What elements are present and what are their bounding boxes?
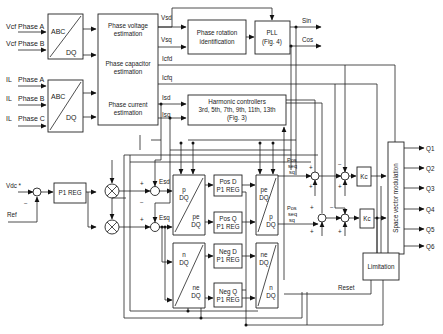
output-q2: Q2: [404, 165, 435, 173]
svg-text:Q3: Q3: [426, 185, 435, 193]
sum-junction-esd: [151, 187, 160, 196]
pos-q-p1-reg-block: Pos Q P1 REG: [214, 212, 242, 233]
phase-label: Phase B: [18, 40, 45, 47]
svg-text:Space vector modulation: Space vector modulation: [392, 163, 400, 233]
signal-label: IL: [6, 115, 12, 122]
svg-text:Pos Q: Pos Q: [219, 215, 237, 223]
svg-text:Phase capacitor: Phase capacitor: [105, 60, 150, 68]
ne-dq-transform: ne DQ n DQ: [256, 243, 278, 308]
sum-junction-kc1: [341, 172, 349, 180]
svg-text:Kc: Kc: [360, 173, 367, 180]
p1-reg-block: P1 REG: [54, 183, 86, 203]
svg-text:P1 REG: P1 REG: [216, 186, 239, 193]
svg-text:DQ: DQ: [266, 221, 276, 229]
output-q6: Q6: [404, 243, 435, 251]
svg-text:DQ: DQ: [179, 194, 189, 202]
signal-esd: Esd: [159, 178, 170, 185]
svg-text:ABC: ABC: [51, 28, 65, 35]
phase-label: Phase A: [18, 23, 44, 30]
signal-label: Vcf: [6, 23, 16, 30]
abc-dq-transform-vcf: ABC DQ: [48, 14, 83, 59]
p-dq-transform: p DQ pe DQ: [173, 175, 205, 235]
neg-d-p1-reg-block: Neg D P1 REG: [214, 244, 242, 268]
n-dq-transform: n DQ ne DQ: [173, 243, 205, 308]
svg-text:P1 REG: P1 REG: [216, 256, 239, 263]
output-q4: Q4: [404, 206, 435, 214]
control-block-diagram: Vcf Phase A Vcf Phase B IL Phase A IL Ph…: [0, 0, 443, 334]
signal-esq: Esq: [159, 214, 170, 222]
pos-d-p1-reg-block: Pos D P1 REG: [214, 175, 242, 196]
input-il-phase-c: IL Phase C: [6, 115, 46, 126]
svg-text:Q2: Q2: [426, 165, 435, 173]
pll-block: PLL (Fig. 4): [255, 21, 290, 54]
svg-text:Phase current: Phase current: [108, 101, 147, 108]
input-ref: Ref: [7, 211, 17, 218]
svg-text:+: +: [140, 216, 144, 223]
svg-text:pe: pe: [260, 186, 268, 194]
sum-junction-esq: [151, 223, 160, 232]
svg-text:+: +: [140, 180, 144, 187]
svg-text:Pos D: Pos D: [219, 178, 237, 185]
multiplier-q: [105, 220, 119, 234]
output-q3: Q3: [404, 185, 435, 193]
svg-text:−: −: [338, 161, 342, 168]
signal-isd: Isd: [162, 94, 171, 101]
svg-text:estimation: estimation: [114, 30, 143, 37]
sum-junction-pos-q: [318, 214, 326, 222]
svg-text:+: +: [338, 183, 342, 190]
svg-text:ABC: ABC: [51, 93, 65, 100]
signal-cos: Cos: [302, 36, 313, 43]
svg-text:−: −: [140, 199, 144, 206]
phase-label: Phase C: [18, 115, 45, 122]
signal-label: IL: [6, 76, 12, 83]
svg-text:estimation: estimation: [114, 109, 143, 116]
svg-text:−: −: [330, 204, 334, 211]
multiplier-d: [105, 184, 119, 198]
estimation-block: Phase voltage estimation Phase capacitor…: [98, 14, 158, 125]
svg-text:Q5: Q5: [426, 226, 435, 234]
svg-text:3rd, 5th, 7th, 9th, 11th, 13th: 3rd, 5th, 7th, 9th, 11th, 13th: [199, 106, 276, 113]
pe-dq-transform: pe DQ p DQ: [256, 175, 278, 235]
svg-text:+: +: [310, 228, 314, 235]
svg-text:DQ: DQ: [266, 292, 276, 300]
svg-text:Kc: Kc: [363, 215, 370, 222]
svg-text:DQ: DQ: [191, 292, 201, 300]
svg-text:sq: sq: [289, 217, 295, 223]
svg-text:−: −: [24, 200, 28, 207]
input-il-phase-a: IL Phase A: [6, 76, 46, 86]
sum-junction-pos-d: [311, 172, 319, 180]
signal-vsd: Vsd: [161, 14, 172, 21]
svg-text:+: +: [310, 204, 314, 211]
phase-label: Phase B: [18, 95, 45, 102]
svg-text:Neg Q: Neg Q: [219, 288, 237, 296]
svg-text:Phase voltage: Phase voltage: [108, 22, 148, 30]
svg-text:identification: identification: [199, 38, 235, 45]
phase-label: Phase A: [18, 76, 44, 83]
space-vector-modulation-block: Space vector modulation: [388, 142, 404, 254]
phase-rotation-identification-block: Phase rotation identification: [188, 20, 246, 54]
svg-text:DQ: DQ: [66, 114, 77, 122]
svg-text:p: p: [269, 213, 273, 221]
svg-text:Q4: Q4: [426, 206, 435, 214]
svg-text:Phase rotation: Phase rotation: [197, 29, 238, 36]
abc-dq-transform-il: ABC DQ: [48, 80, 83, 132]
svg-text:+: +: [338, 228, 342, 235]
svg-text:Neg D: Neg D: [219, 248, 237, 256]
signal-vsq: Vsq: [161, 36, 172, 44]
svg-text:DQ: DQ: [191, 221, 201, 229]
svg-text:estimation: estimation: [114, 68, 143, 75]
signal-sin: Sin: [302, 17, 312, 24]
svg-text:Q6: Q6: [426, 243, 435, 251]
signal-icfd: Icfd: [162, 55, 173, 62]
svg-text:Limitation: Limitation: [368, 263, 395, 270]
input-vdc: Vdc *: [6, 182, 22, 189]
svg-text:ne: ne: [260, 251, 268, 258]
svg-text:(Fig. 4): (Fig. 4): [262, 38, 282, 46]
limitation-block: Limitation: [363, 253, 399, 280]
svg-text:n: n: [269, 284, 273, 291]
svg-text:sq: sq: [289, 169, 295, 175]
svg-text:DQ: DQ: [179, 259, 189, 267]
kc-gain-block-1: Kc: [357, 167, 371, 186]
output-q1: Q1: [404, 145, 435, 153]
svg-text:DQ: DQ: [259, 194, 269, 202]
